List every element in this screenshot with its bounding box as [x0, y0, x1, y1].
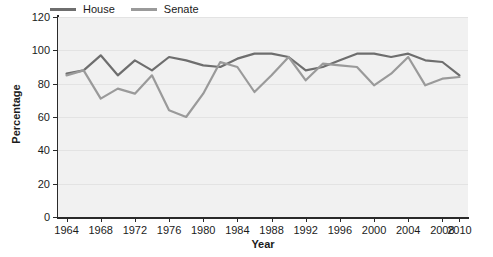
y-tick-label-120: 120	[32, 12, 50, 23]
y-tick-label-0: 0	[44, 212, 50, 223]
y-tick-label-100: 100	[32, 45, 50, 56]
x-tick-1996	[340, 217, 341, 222]
y-tick-0	[53, 217, 58, 218]
x-tick-1972	[135, 217, 136, 222]
x-tick-1964	[67, 217, 68, 222]
x-tick-1992	[306, 217, 307, 222]
x-tick-2010	[459, 217, 460, 222]
x-tick-1976	[169, 217, 170, 222]
y-tick-20	[53, 184, 58, 185]
x-tick-label-2000: 2000	[362, 224, 386, 236]
x-tick-label-1980: 1980	[191, 224, 215, 236]
x-tick-2008	[442, 217, 443, 222]
x-tick-1988	[272, 217, 273, 222]
y-tick-80	[53, 84, 58, 85]
x-tick-1980	[203, 217, 204, 222]
chart-figure: HouseSenate 020406080100120 Year Percent…	[0, 0, 493, 257]
x-tick-label-1968: 1968	[88, 224, 112, 236]
x-tick-1984	[237, 217, 238, 222]
x-tick-label-2004: 2004	[396, 224, 420, 236]
y-tick-label-group: 020406080100120	[0, 0, 493, 257]
y-tick-label-40: 40	[38, 145, 50, 156]
y-tick-60	[53, 117, 58, 118]
x-tick-label-2010: 2010	[447, 224, 471, 236]
x-tick-2000	[374, 217, 375, 222]
y-tick-label-60: 60	[38, 112, 50, 123]
x-axis-title: Year	[58, 238, 468, 250]
x-tick-label-1964: 1964	[54, 224, 78, 236]
x-tick-1968	[101, 217, 102, 222]
y-axis-title: Percentage	[10, 64, 22, 164]
y-tick-label-80: 80	[38, 78, 50, 89]
y-tick-120	[53, 17, 58, 18]
x-tick-label-1996: 1996	[328, 224, 352, 236]
y-tick-label-20: 20	[38, 178, 50, 189]
x-tick-label-1972: 1972	[123, 224, 147, 236]
x-tick-2004	[408, 217, 409, 222]
x-tick-label-1984: 1984	[225, 224, 249, 236]
x-tick-label-1992: 1992	[293, 224, 317, 236]
y-tick-100	[53, 50, 58, 51]
x-tick-label-1976: 1976	[157, 224, 181, 236]
y-tick-40	[53, 150, 58, 151]
x-tick-label-1988: 1988	[259, 224, 283, 236]
